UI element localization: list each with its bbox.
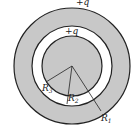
concentric-spheres-diagram: +q +q R3 R2 R1 — [0, 0, 134, 134]
outer-charge-label: +q — [76, 0, 90, 7]
r1-label: R1 — [100, 113, 112, 124]
inner-charge-label: +q — [65, 26, 79, 36]
